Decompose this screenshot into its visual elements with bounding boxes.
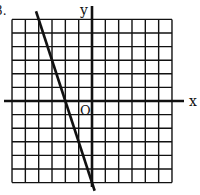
coordinate-grid — [0, 0, 200, 195]
x-axis-label: x — [189, 94, 197, 108]
y-axis-label: y — [80, 3, 88, 17]
origin-label: O — [80, 104, 91, 117]
